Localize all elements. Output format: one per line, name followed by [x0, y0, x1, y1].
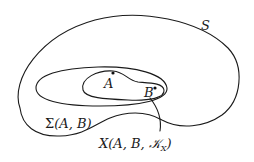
x-label-close: ) [166, 136, 172, 151]
region-sigma-label: Σ(A, B) [45, 116, 92, 131]
point-b-label: B [143, 85, 154, 100]
sigma-args: (A, B) [54, 116, 91, 131]
sigma-symbol: Σ [45, 116, 54, 131]
region-s-label: S [201, 18, 210, 33]
nested-regions-diagram: A B S Σ(A, B) X(A, B, 𝒦X) [0, 0, 254, 162]
point-a-dot [111, 71, 114, 74]
diagram-canvas: A B S Σ(A, B) X(A, B, 𝒦X) [0, 0, 254, 162]
x-label-main: X(A, B, 𝒦 [98, 136, 165, 151]
point-a-label: A [103, 76, 113, 91]
leader-line-x [150, 98, 161, 131]
region-x-label: X(A, B, 𝒦X) [98, 136, 172, 153]
point-b-dot [153, 86, 156, 89]
